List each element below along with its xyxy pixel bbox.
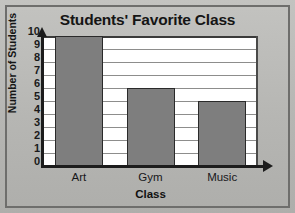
y-tick-label: 8	[22, 52, 40, 62]
x-axis-title: Class	[43, 188, 258, 200]
bar-music	[198, 101, 246, 166]
y-tick-label: 1	[22, 143, 40, 153]
chart-figure: Students' Favorite Class Number of Stude…	[0, 0, 295, 213]
y-tick-label: 2	[22, 130, 40, 140]
y-axis-line	[41, 36, 44, 167]
y-tick-label: 3	[22, 117, 40, 127]
bar-art	[55, 36, 103, 166]
y-tick-label: 7	[22, 65, 40, 75]
x-tick-label-music: Music	[182, 171, 262, 183]
y-tick-label: 4	[22, 104, 40, 114]
plot-area	[43, 36, 258, 166]
y-axis-arrow-icon	[37, 27, 47, 37]
x-tick-label-art: Art	[39, 171, 119, 183]
y-tick-label: 6	[22, 78, 40, 88]
y-tick-label: 9	[22, 39, 40, 49]
bar-gym	[127, 88, 175, 166]
y-tick-label: 0	[22, 156, 40, 166]
x-axis-line	[41, 165, 265, 168]
x-axis-arrow-icon	[263, 160, 273, 172]
y-axis-tick-labels: 109876543210	[22, 31, 40, 167]
x-tick-label-gym: Gym	[111, 171, 191, 183]
y-tick-label: 5	[22, 91, 40, 101]
y-axis-title: Number of Students	[6, 3, 18, 123]
